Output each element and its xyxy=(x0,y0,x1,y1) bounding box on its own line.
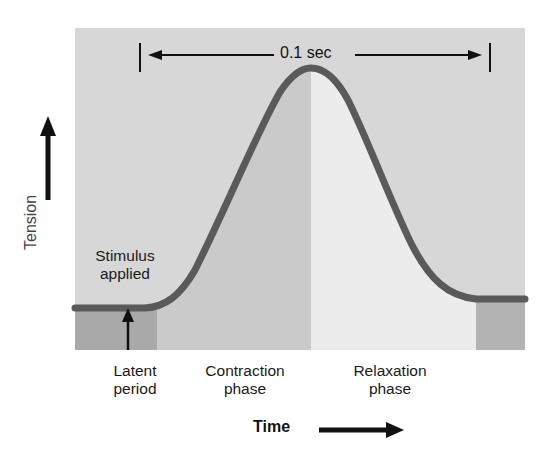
duration-label: 0.1 sec xyxy=(280,44,332,62)
phase-label-contraction-line-1: Contraction xyxy=(180,362,310,380)
time-right-arrow-icon xyxy=(319,422,404,438)
twitch-myogram-figure: 0.1 sec Tension Stimulus applied Latent … xyxy=(0,0,550,455)
phase-label-contraction: Contraction phase xyxy=(180,362,310,398)
y-axis-label: Tension xyxy=(22,195,40,250)
phase-label-relaxation: Relaxation phase xyxy=(325,362,455,398)
tension-up-arrow-icon xyxy=(40,116,56,200)
phase-label-contraction-line-2: phase xyxy=(180,380,310,398)
end-baseline-box xyxy=(476,300,525,350)
phase-label-relaxation-line-1: Relaxation xyxy=(325,362,455,380)
stimulus-label-line-2: applied xyxy=(80,265,170,283)
phase-label-relaxation-line-2: phase xyxy=(325,380,455,398)
latent-period-box xyxy=(75,310,157,350)
stimulus-label: Stimulus applied xyxy=(80,247,170,283)
phase-label-latent-line-1: Latent xyxy=(100,362,170,380)
x-axis-label: Time xyxy=(253,418,290,436)
stimulus-label-line-1: Stimulus xyxy=(80,247,170,265)
phase-label-latent: Latent period xyxy=(100,362,170,398)
phase-label-latent-line-2: period xyxy=(100,380,170,398)
